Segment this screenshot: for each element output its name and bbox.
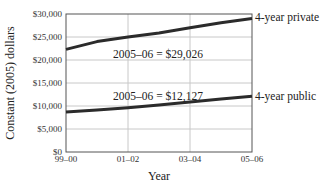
x-tick-label: 05–06 (241, 154, 264, 164)
x-tick-label: 01–02 (117, 154, 140, 164)
series-label-public: 4-year public (255, 90, 316, 103)
private-annotation: 2005–06 = $29,026 (113, 48, 203, 61)
x-axis-ticks: 99–0001–0203–0405–06 (55, 154, 264, 164)
series-label-private: 4-year private (255, 11, 319, 24)
y-tick-label: $5,000 (37, 124, 62, 134)
y-tick-label: $25,000 (33, 32, 63, 42)
x-tick-label: 03–04 (179, 154, 202, 164)
line-chart: $0$5,000$10,000$15,000$20,000$25,000$30,… (0, 0, 336, 190)
y-tick-label: $15,000 (33, 78, 63, 88)
y-tick-label: $30,000 (33, 9, 63, 19)
y-tick-label: $20,000 (33, 55, 63, 65)
x-axis-title: Year (148, 169, 170, 183)
series-line-private (66, 19, 252, 50)
y-tick-label: $10,000 (33, 101, 63, 111)
y-axis-ticks: $0$5,000$10,000$15,000$20,000$25,000$30,… (33, 9, 63, 157)
grid-lines (66, 14, 252, 152)
y-axis-title: Constant (2005) dollars (3, 26, 17, 140)
x-tick-label: 99–00 (55, 154, 78, 164)
public-annotation: 2005–06 = $12,127 (113, 90, 203, 103)
